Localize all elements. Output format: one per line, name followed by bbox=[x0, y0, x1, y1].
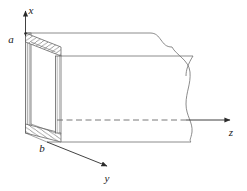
y-axis bbox=[47, 142, 107, 166]
y-axis-label: y bbox=[104, 172, 110, 184]
dimension-label-b: b bbox=[39, 142, 45, 154]
origin-point bbox=[24, 32, 27, 35]
inner-right-wall-hatch bbox=[56, 56, 62, 133]
tube-break-line-group bbox=[172, 47, 193, 142]
x-axis-label: x bbox=[28, 4, 34, 16]
left-wall-hatch bbox=[26, 33, 32, 133]
dimension-label-a: a bbox=[8, 33, 14, 45]
z-axis-label: z bbox=[228, 126, 234, 138]
waveguide-left-wall bbox=[26, 33, 32, 133]
tube-break-wavy-line bbox=[172, 47, 192, 142]
waveguide-inner-right-wall bbox=[56, 56, 62, 133]
tube-break-wavy-line-inner bbox=[186, 56, 193, 76]
waveguide-diagram-svg: x y z a b bbox=[0, 0, 247, 191]
y-axis-line bbox=[47, 142, 107, 166]
waveguide-figure: x y z a b bbox=[0, 0, 247, 191]
